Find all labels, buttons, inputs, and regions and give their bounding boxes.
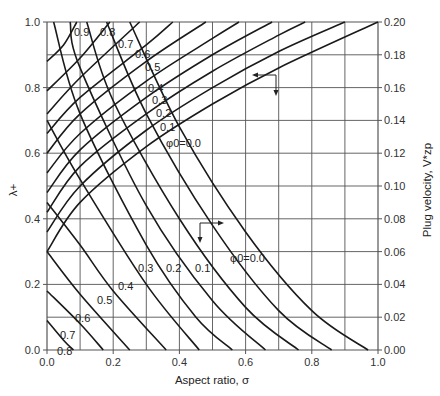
x-tick-label: 0.2 (106, 356, 121, 368)
lower-curve-label: 0.8 (57, 345, 72, 357)
upper-curve-label: 0.8 (100, 26, 115, 38)
y-right-tick-label: 0.08 (384, 213, 405, 225)
lower-curve-label: 0.5 (97, 294, 112, 306)
velocity-curve (47, 22, 173, 134)
y-right-tick-label: 0.06 (384, 246, 405, 258)
arrow-left-icon (252, 73, 279, 97)
y-axis-right-title: Plug velocity, V*zp (421, 143, 433, 237)
y-right-tick-label: 0.12 (384, 147, 405, 159)
y-tick-label: 0.2 (25, 278, 40, 290)
x-tick-label: 1.0 (370, 356, 385, 368)
x-tick-label: 0.8 (304, 356, 319, 368)
y-tick-label: 1.0 (25, 16, 40, 28)
chart: 0.00.20.40.60.81.00.00.20.40.60.81.00.00… (0, 0, 440, 396)
y-right-tick-label: 0.02 (384, 311, 405, 323)
lower-curve-label: 0.1 (195, 262, 210, 274)
lower-curve-label: 0.3 (138, 262, 153, 274)
lower-curve-label: 0.4 (118, 280, 133, 292)
lower-curve-label: 0.6 (75, 312, 90, 324)
upper-curve-label: 0.4 (148, 82, 163, 94)
upper-curve-label: 0.1 (160, 121, 175, 133)
y-right-tick-label: 0.16 (384, 82, 405, 94)
y-right-tick-label: 0.10 (384, 180, 405, 192)
lower-curve-label: 0.7 (60, 329, 75, 341)
y-right-tick-label: 0.18 (384, 49, 405, 61)
upper-curve-label: 0.9 (74, 26, 89, 38)
y-right-tick-label: 0.04 (384, 278, 405, 290)
y-tick-label: 0.8 (25, 82, 40, 94)
upper-curve-label: 0.2 (156, 107, 171, 119)
x-tick-label: 0.4 (172, 356, 187, 368)
lower-curve-label: φ0=0.0 (230, 252, 265, 264)
x-tick-label: 0.6 (238, 356, 253, 368)
x-tick-label: 0.0 (39, 356, 54, 368)
lower-curve-label: 0.2 (166, 262, 181, 274)
y-axis-left-title: λ+ (7, 183, 19, 196)
upper-curve-label: 0.6 (135, 48, 150, 60)
y-tick-label: 0.0 (25, 344, 40, 356)
velocity-curve (47, 22, 239, 173)
y-tick-label: 0.4 (25, 213, 40, 225)
upper-curve-label: 0.7 (118, 38, 133, 50)
upper-curve-label: 0.3 (152, 94, 167, 106)
y-right-tick-label: 0.14 (384, 114, 405, 126)
y-right-tick-label: 0.20 (384, 16, 405, 28)
y-tick-label: 0.6 (25, 147, 40, 159)
upper-curve-label: 0.5 (145, 61, 160, 73)
upper-curve-label: φ0=0.0 (166, 137, 201, 149)
x-axis-title: Aspect ratio, σ (175, 374, 249, 386)
y-right-tick-label: 0.00 (384, 344, 405, 356)
lambda-curve (47, 120, 199, 350)
